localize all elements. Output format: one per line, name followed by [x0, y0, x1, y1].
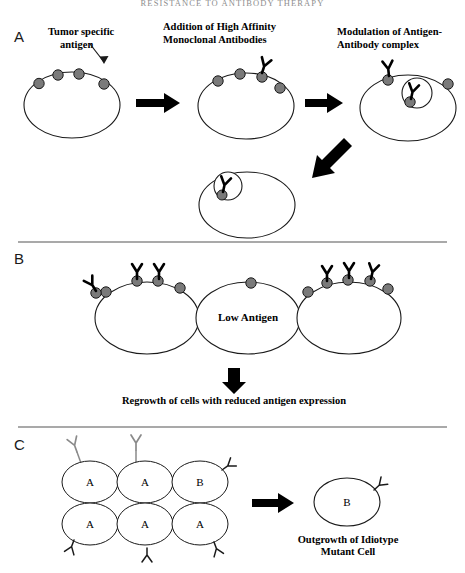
colony-cell-r1c0: A — [62, 503, 118, 555]
panel-b-group: Low Antigen — [84, 263, 401, 394]
colony-cell-r0c2: B — [172, 458, 236, 503]
colony-label-r1c2: A — [196, 518, 204, 530]
cell-label-mutant: B — [343, 496, 350, 508]
colony-cell-r1c2: A — [172, 503, 228, 557]
colony-label-r0c2: B — [196, 476, 203, 488]
colony-cell-r1c1: A — [117, 503, 173, 562]
colony-label-r0c1: A — [141, 476, 149, 488]
arrow-a2 — [305, 93, 343, 113]
colony-label-r0c0: A — [86, 476, 94, 488]
cell-high-antigen-left — [84, 264, 199, 354]
arrow-a3-diagonal — [312, 138, 352, 178]
cell-antibody-bound — [198, 57, 294, 139]
cell-label-low-antigen: Low Antigen — [218, 311, 278, 323]
panel-a-group — [24, 44, 456, 238]
panel-c-group: A A B A A — [62, 435, 388, 562]
free-antibody-left — [67, 436, 82, 454]
arrow-b-down — [222, 368, 246, 394]
free-antibody-middle — [131, 435, 141, 450]
colony-cell-r0c1: A — [117, 461, 173, 503]
cell-modulating — [360, 61, 456, 141]
arrow-c-right — [252, 493, 294, 513]
colony-cell-r0c0: A — [62, 461, 118, 503]
cell-idiotype-mutant: B — [314, 477, 388, 526]
colony-label-r1c1: A — [141, 518, 149, 530]
cell-naive — [24, 69, 120, 138]
antigen-pointer-arrow — [90, 44, 109, 64]
figure-resistance-to-antibody-therapy: RESISTANCE TO ANTIBODY THERAPY A Tumor s… — [0, 0, 465, 573]
arrow-a1 — [136, 93, 180, 113]
cell-low-antigen: Low Antigen — [196, 278, 300, 354]
cell-high-antigen-right — [297, 263, 401, 354]
diagram-vector-layer: Low Antigen — [0, 0, 465, 573]
cell-internalized — [199, 172, 295, 238]
colony-label-r1c0: A — [86, 518, 94, 530]
